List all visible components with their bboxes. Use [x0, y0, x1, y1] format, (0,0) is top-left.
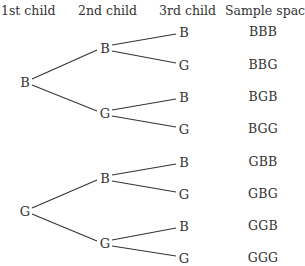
level1-node-b: B	[20, 76, 30, 89]
level3-node-bgb: B	[179, 91, 189, 104]
level2-node-gg: G	[100, 237, 110, 250]
tree-edge	[112, 51, 176, 63]
tree-edge	[32, 180, 97, 208]
sample-outcome: GBG	[248, 188, 278, 201]
level3-node-bbb: B	[179, 26, 189, 39]
sample-outcome: BGG	[248, 123, 278, 136]
sample-outcome: BGB	[248, 91, 277, 104]
level2-node-gb: B	[100, 172, 110, 185]
tree-edge	[112, 164, 176, 175]
level3-node-gbb: B	[179, 156, 189, 169]
tree-edge	[112, 181, 176, 192]
tree-edge	[112, 116, 176, 127]
level3-node-gbg: G	[179, 188, 189, 201]
level3-node-ggb: B	[179, 220, 189, 233]
tree-edge	[32, 214, 97, 241]
tree-edge	[112, 246, 176, 256]
level2-node-bg: G	[100, 107, 110, 120]
tree-edge	[32, 85, 97, 111]
sample-outcome: GBB	[249, 156, 278, 169]
level3-node-ggg: G	[179, 252, 189, 265]
sample-outcome: BBG	[248, 59, 277, 72]
tree-edge	[32, 50, 97, 79]
level3-node-bgg: G	[179, 123, 189, 136]
sample-outcome: BBB	[249, 26, 277, 39]
sample-outcome: GGG	[248, 252, 279, 265]
tree-edge	[112, 99, 176, 110]
tree-edge	[112, 34, 176, 45]
level1-node-g: G	[20, 205, 30, 218]
tree-edge	[112, 228, 176, 240]
level3-node-bbg: G	[179, 59, 189, 72]
level2-node-bb: B	[100, 42, 110, 55]
sample-outcome: GGB	[248, 220, 278, 233]
